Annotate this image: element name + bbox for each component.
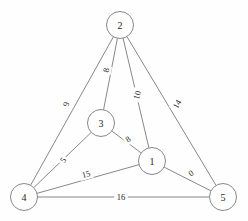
edge-weight-4-5: 16 (114, 192, 127, 203)
edge-weight-4-1: 15 (78, 167, 94, 181)
edge-weight-label: 16 (117, 192, 126, 202)
edge-weight-2-4: 9 (60, 99, 72, 109)
edge-weight-2-3: 8 (100, 65, 112, 75)
edge-weight-3-1: 8 (121, 132, 134, 146)
graph-node-4[interactable]: 4 (11, 184, 38, 211)
graph-node-2[interactable]: 2 (107, 12, 134, 39)
node-label-3: 3 (99, 118, 104, 129)
node-label-1: 1 (150, 156, 155, 167)
edge-weight-2-1: 10 (130, 87, 144, 103)
graph-node-1[interactable]: 1 (139, 148, 166, 175)
graph-node-5[interactable]: 5 (210, 184, 237, 211)
graph-node-3[interactable]: 3 (88, 110, 115, 137)
node-label-5: 5 (221, 192, 226, 203)
graph-figure: 9810148515016 23145 (0, 0, 248, 221)
graph-canvas: 9810148515016 23145 (0, 0, 248, 221)
node-label-4: 4 (22, 192, 27, 203)
node-label-2: 2 (118, 20, 123, 31)
edge-weight-1-5: 0 (184, 166, 197, 180)
